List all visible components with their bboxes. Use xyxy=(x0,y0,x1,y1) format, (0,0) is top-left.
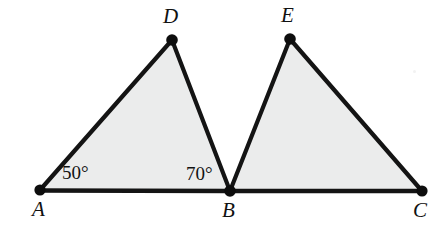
vertex-dot-C xyxy=(416,185,427,196)
figure-canvas xyxy=(0,0,448,229)
angle-label-A: 50° xyxy=(62,163,89,182)
vertex-dot-E xyxy=(284,33,296,45)
vertex-dot-D xyxy=(166,34,178,46)
vertex-label-D: D xyxy=(163,6,178,27)
vertex-dot-B xyxy=(224,185,236,197)
vertex-label-A: A xyxy=(32,199,45,220)
scan-speck xyxy=(413,70,416,73)
vertex-label-C: C xyxy=(413,200,427,221)
vertex-dot-A xyxy=(34,184,45,195)
vertex-label-E: E xyxy=(281,5,294,26)
geometry-figure: A B C D E 50° 70° xyxy=(0,0,448,229)
angle-label-DBA: 70° xyxy=(186,164,213,183)
segment-AB xyxy=(40,191,230,192)
vertex-label-B: B xyxy=(222,200,235,221)
